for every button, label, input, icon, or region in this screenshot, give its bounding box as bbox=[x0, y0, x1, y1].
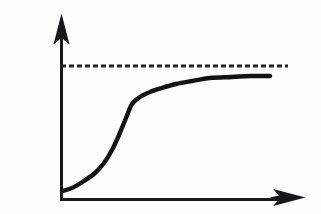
sigmoid-figure: Sigmoid growth curve approaching an asym… bbox=[0, 0, 321, 214]
figure-canvas bbox=[0, 0, 321, 214]
figure-background bbox=[0, 0, 321, 214]
